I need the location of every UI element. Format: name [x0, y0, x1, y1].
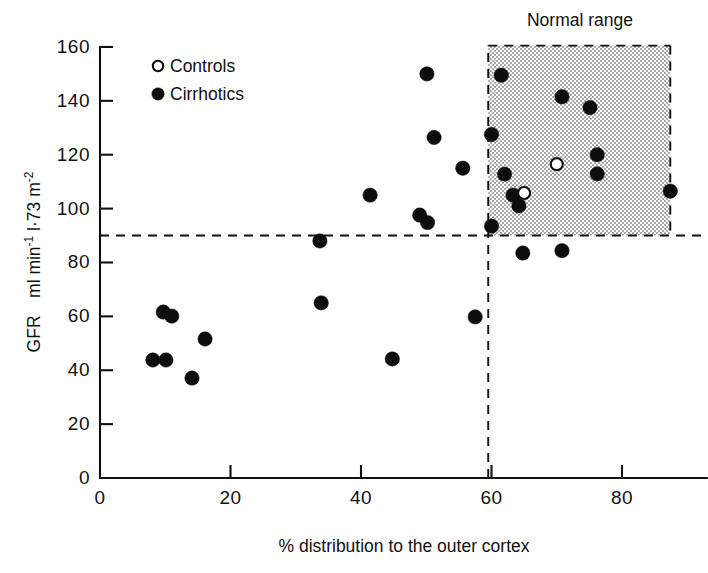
legend-label-controls: Controls [170, 56, 235, 76]
normal-range-label: Normal range [527, 10, 633, 30]
data-point [146, 353, 160, 367]
data-point [468, 310, 482, 324]
scatter-plot-figure: 020406080100120140160 020406080 Controls… [0, 0, 708, 573]
legend-marker-controls [153, 61, 163, 71]
data-point [484, 219, 498, 233]
y-tick-label: 60 [68, 305, 90, 326]
data-point [583, 100, 597, 114]
data-point [494, 68, 508, 82]
plot-svg: 020406080100120140160 020406080 Controls… [0, 0, 708, 573]
y-axis-title: GFR ml min-1 l·73 m-2 [22, 171, 44, 352]
data-point [385, 352, 399, 366]
data-point [427, 130, 441, 144]
data-point [363, 188, 377, 202]
data-point [555, 243, 569, 257]
data-point [663, 184, 677, 198]
svg-text:GFR ml min-1 l·73 m-2: GFR ml min-1 l·73 m-2 [22, 171, 44, 352]
y-tick-label: 0 [79, 467, 90, 488]
x-tick-label: 0 [94, 487, 105, 508]
x-axis-title: % distribution to the outer cortex [279, 536, 530, 556]
data-point [456, 161, 470, 175]
y-tick-label: 100 [57, 198, 90, 219]
data-point [590, 167, 604, 181]
data-point [420, 215, 434, 229]
legend-label-cirrhotics: Cirrhotics [170, 84, 244, 104]
data-point [159, 353, 173, 367]
data-point [484, 127, 498, 141]
data-point [551, 158, 563, 170]
data-point [512, 199, 526, 213]
y-tick-label: 80 [68, 251, 90, 272]
data-point [518, 187, 530, 199]
x-tick-label: 80 [611, 487, 633, 508]
data-point [555, 90, 569, 104]
x-tick-label: 40 [350, 487, 372, 508]
x-tick-labels: 020406080 [94, 487, 633, 508]
data-point [165, 309, 179, 323]
data-point [590, 148, 604, 162]
data-point [497, 167, 511, 181]
x-tick-label: 20 [219, 487, 241, 508]
legend-marker-cirrhotics [152, 88, 164, 100]
data-point [314, 296, 328, 310]
y-tick-label: 20 [68, 413, 90, 434]
y-tick-label: 160 [57, 36, 90, 57]
legend: Controls Cirrhotics [152, 56, 244, 104]
data-point [420, 67, 434, 81]
y-tick-label: 140 [57, 90, 90, 111]
data-point [516, 246, 530, 260]
x-tick-label: 60 [480, 487, 502, 508]
data-point [185, 371, 199, 385]
data-point [313, 234, 327, 248]
data-point [198, 332, 212, 346]
y-tick-label: 120 [57, 144, 90, 165]
y-tick-labels: 020406080100120140160 [57, 36, 90, 488]
y-tick-label: 40 [68, 359, 90, 380]
